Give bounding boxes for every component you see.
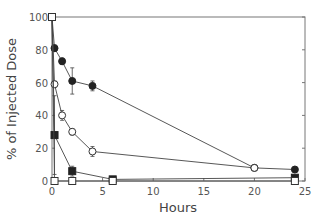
- data-point: [51, 178, 58, 185]
- data-point: [59, 112, 66, 119]
- x-tick-label: 25: [299, 186, 312, 197]
- x-axis-label: Hours: [159, 200, 197, 215]
- series-open-circles: [49, 14, 258, 172]
- series-line: [52, 17, 254, 168]
- x-tick-label: 0: [49, 186, 55, 197]
- data-point: [69, 178, 76, 185]
- series-filled-circles: [49, 14, 299, 174]
- x-tick-label: 10: [147, 186, 160, 197]
- data-point: [69, 168, 76, 175]
- y-tick-label: 80: [35, 45, 48, 56]
- x-tick-label: 15: [197, 186, 210, 197]
- series-line: [52, 17, 295, 170]
- data-point: [69, 77, 76, 84]
- y-tick-label: 40: [35, 110, 48, 121]
- data-point: [59, 58, 66, 65]
- x-tick-label: 20: [248, 186, 261, 197]
- data-point: [51, 132, 58, 139]
- data-point: [109, 178, 116, 185]
- y-tick-label: 100: [29, 12, 48, 23]
- plot-frame: [52, 17, 305, 181]
- y-tick-label: 0: [42, 176, 48, 187]
- x-tick-label: 5: [99, 186, 105, 197]
- data-point: [251, 164, 258, 171]
- y-tick-label: 60: [35, 78, 48, 89]
- y-tick-label: 20: [35, 143, 48, 154]
- data-point: [51, 81, 58, 88]
- data-point: [89, 148, 96, 155]
- y-axis: 020406080100: [29, 12, 305, 187]
- data-point: [291, 178, 298, 185]
- series-filled-squares: [49, 14, 299, 183]
- data-point: [49, 14, 56, 21]
- series-group: [49, 14, 299, 185]
- data-point: [291, 166, 298, 173]
- data-point: [89, 82, 96, 89]
- series-line: [52, 17, 295, 179]
- series-line: [52, 17, 295, 181]
- data-point: [69, 128, 76, 135]
- y-axis-label: % of Injected Dose: [4, 38, 19, 160]
- chart: 020406080100 0510152025 Hours % of Injec…: [0, 0, 317, 220]
- series-open-squares: [49, 14, 299, 185]
